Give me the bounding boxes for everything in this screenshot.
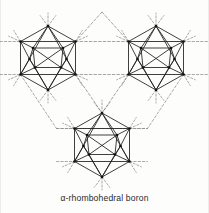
boron-atom [60, 66, 63, 69]
dangling-bond-stub [9, 36, 21, 41]
boron-atom [173, 58, 176, 61]
boron-atom [34, 66, 37, 69]
boron-bond [87, 135, 115, 155]
dangling-bond-stub [76, 75, 88, 80]
boron-atom [19, 40, 22, 43]
dangling-bond-stub [102, 103, 110, 113]
boron-atom [62, 47, 65, 50]
dangling-bond-stub [63, 162, 75, 167]
dangling-bond-stub [156, 90, 164, 100]
dangling-bond-stub [76, 36, 88, 41]
figure-caption: α-rhombohedral boron [0, 193, 209, 203]
boron-atom [88, 153, 91, 156]
boron-atom [170, 47, 173, 50]
dangling-bond-stub [148, 90, 156, 100]
boron-atom [116, 134, 119, 137]
intercluster-bond-layer [0, 12, 209, 190]
boron-atom [182, 40, 185, 43]
boron-bond [141, 48, 169, 68]
boron-atom [73, 160, 76, 163]
boron-bond [89, 135, 117, 155]
intercluster-bond [148, 75, 184, 129]
boron-atom [101, 176, 104, 179]
dangling-bond-stub [184, 36, 196, 41]
dangling-bond-stub [156, 16, 164, 26]
boron-bond [143, 48, 171, 68]
dangling-bond-stub [48, 16, 56, 26]
intercluster-bond [76, 12, 103, 42]
intercluster-bond [102, 12, 129, 42]
boron-atom [47, 25, 50, 28]
boron-bond [33, 48, 61, 68]
dangling-bond-stub [63, 123, 75, 128]
dangling-bond-stub [117, 36, 129, 41]
alpha-rhombohedral-boron-diagram [0, 0, 209, 213]
boron-atom [74, 40, 77, 43]
boron-atom [155, 89, 158, 92]
boron-atom [128, 127, 131, 130]
dangling-bond-stub [94, 177, 102, 187]
dangling-bond-stub [148, 16, 156, 26]
boron-atom [127, 73, 130, 76]
boron-atom [119, 145, 122, 148]
boron-atom [168, 66, 171, 69]
boron-atom [182, 73, 185, 76]
boron-atom [101, 112, 104, 115]
boron-atom [82, 145, 85, 148]
dangling-bond-stub [40, 16, 48, 26]
intercluster-bond [21, 75, 57, 129]
boron-atom [128, 160, 131, 163]
boron-atom [73, 127, 76, 130]
boron-atom [28, 58, 31, 61]
boron-atom [140, 47, 143, 50]
boron-atom [127, 40, 130, 43]
boron-atom [86, 134, 89, 137]
dangling-bond-stub [130, 162, 142, 167]
boron-atom [155, 25, 158, 28]
boron-bond [35, 48, 63, 68]
boron-atom [65, 58, 68, 61]
dangling-bond-stub [94, 103, 102, 113]
dangling-bond-stub [9, 75, 21, 80]
dangling-bond-stub [48, 90, 56, 100]
boron-atom [136, 58, 139, 61]
boron-atom [32, 47, 35, 50]
figure-container: α-rhombohedral boron [0, 0, 209, 213]
intercluster-bond [76, 75, 103, 114]
boron-atom [47, 89, 50, 92]
dangling-bond-stub [102, 177, 110, 187]
intercluster-bond [102, 75, 129, 114]
dangling-bond-stub [117, 75, 129, 80]
dangling-bond-stub [184, 75, 196, 80]
boron-atom [19, 73, 22, 76]
boron-atom [114, 153, 117, 156]
dangling-bond-stub [40, 90, 48, 100]
icosahedra-bond-layer [21, 26, 184, 177]
boron-atom [74, 73, 77, 76]
boron-atom [142, 66, 145, 69]
dangling-bond-stub [130, 123, 142, 128]
